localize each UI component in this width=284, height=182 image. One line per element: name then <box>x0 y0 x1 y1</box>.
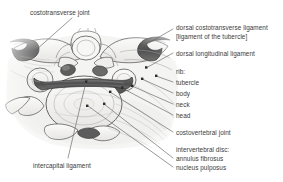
dot-nucleus-pulposus <box>86 105 88 107</box>
label-annulus-fibrosus: annulus fibrosus <box>176 155 223 164</box>
dot-head <box>121 87 123 89</box>
leader-dorsal-longitudinal-ligament <box>146 53 173 68</box>
leader-costotransverse-joint <box>36 18 72 50</box>
label-dorsal-costotransverse-ligament: dorsal costotransverse ligament <box>176 24 268 33</box>
leader-dorsal-costotransverse-ligament <box>140 29 173 48</box>
leader-annulus-fibrosus <box>104 104 173 158</box>
label-nucleus-pulposus: nucleus pulposus <box>176 164 226 173</box>
label-body: body <box>176 90 190 99</box>
dot-annulus-fibrosus <box>103 103 105 105</box>
dot-body <box>141 78 143 80</box>
dot-dorsal-longitudinal-ligament <box>145 66 147 68</box>
figure-panel: costotransverse joint intercapital ligam… <box>0 0 284 182</box>
label-rib: rib: <box>176 68 185 77</box>
label-costovertebral-joint: costovertebral joint <box>176 129 231 138</box>
leader-tubercle <box>156 76 173 82</box>
leader-head <box>122 88 173 115</box>
label-head: head <box>176 112 190 121</box>
dot-tubercle <box>155 75 157 77</box>
label-ligament-of-the-tubercle: [ligament of the tubercle] <box>176 33 247 42</box>
label-tubercle: tubercle <box>176 79 199 88</box>
leader-neck <box>132 86 173 104</box>
label-intervertebral-disc: intervertebral disc: <box>176 146 229 155</box>
dot-neck <box>131 85 133 87</box>
label-intercapital-ligament: intercapital ligament <box>33 162 91 171</box>
label-dorsal-longitudinal-ligament: dorsal longitudinal ligament <box>176 50 255 59</box>
label-neck: neck <box>176 101 190 110</box>
dot-costovertebral-joint <box>109 91 111 93</box>
dot-intercapital-ligament <box>85 80 87 82</box>
leader-body <box>142 79 173 93</box>
leader-intercapital-ligament <box>68 82 86 158</box>
leader-nucleus-pulposus <box>88 106 173 167</box>
label-costotransverse-joint: costotransverse joint <box>30 9 90 18</box>
